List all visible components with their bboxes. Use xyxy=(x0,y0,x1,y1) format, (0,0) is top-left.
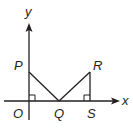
segment-QR xyxy=(59,72,90,101)
point-label-R: R xyxy=(93,58,102,73)
point-label-Q: Q xyxy=(54,106,64,121)
y-axis xyxy=(26,23,33,120)
y-axis-label: y xyxy=(24,4,33,19)
x-axis-label: x xyxy=(121,93,129,108)
right-angle-mark-S xyxy=(84,95,90,101)
coordinate-diagram: y x P R O Q S xyxy=(0,0,133,134)
point-label-P: P xyxy=(14,58,23,73)
segment-PQ xyxy=(29,72,59,101)
right-angle-mark-O xyxy=(29,95,35,101)
point-label-O: O xyxy=(13,106,23,121)
point-label-S: S xyxy=(87,106,96,121)
